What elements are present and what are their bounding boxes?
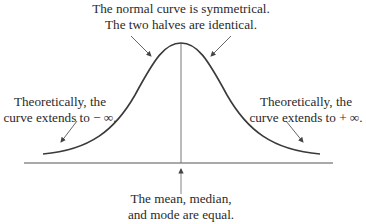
symmetry-line2: The two halves are identical.: [81, 17, 281, 33]
negative-infinity-annotation: Theoretically, the curve extends to − ∞.: [0, 94, 120, 126]
neg-inf-line1: Theoretically, the: [0, 94, 120, 110]
pos-inf-line1: Theoretically, the: [246, 94, 366, 110]
central-line2: and mode are equal.: [111, 207, 251, 223]
positive-infinity-annotation: Theoretically, the curve extends to + ∞.: [246, 94, 366, 126]
top-right-arrow-icon: [211, 36, 231, 56]
central-tendency-annotation: The mean, median, and mode are equal.: [111, 191, 251, 223]
top-left-arrow-icon: [131, 36, 151, 56]
symmetry-line1: The normal curve is symmetrical.: [81, 1, 281, 17]
neg-inf-line2: curve extends to − ∞.: [0, 110, 120, 126]
symmetry-annotation: The normal curve is symmetrical. The two…: [81, 1, 281, 33]
central-line1: The mean, median,: [111, 191, 251, 207]
pos-inf-line2: curve extends to + ∞.: [246, 110, 366, 126]
